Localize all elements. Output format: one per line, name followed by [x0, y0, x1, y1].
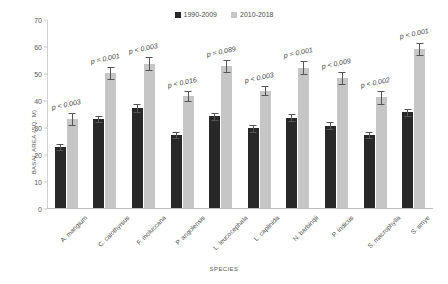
error-bar-cap [95, 116, 102, 117]
error-bar-line [291, 114, 292, 121]
error-bar-cap [173, 132, 180, 133]
error-bar-line [72, 113, 73, 125]
error-bar [288, 114, 295, 121]
error-bar-cap [211, 120, 218, 121]
error-bar-cap [223, 72, 230, 73]
x-axis-label-cell: S. smye [394, 212, 433, 260]
error-bar-cap [404, 109, 411, 110]
x-axis-label-cell: N. barbinqii [279, 212, 318, 260]
error-bar [146, 57, 153, 69]
error-bar-cap [262, 86, 269, 87]
bar-dark [132, 108, 143, 208]
x-axis-label-cell: L. caplinida [240, 212, 279, 260]
bar-light [144, 64, 155, 208]
error-bar-cap [300, 61, 307, 62]
bar-group: p < 0.002 [356, 20, 395, 208]
error-bar-cap [327, 122, 334, 123]
error-bar [57, 144, 64, 150]
error-bar [416, 43, 423, 55]
bar-light [376, 97, 387, 208]
error-bar-cap [262, 95, 269, 96]
error-bar [69, 113, 76, 125]
bar-dark [364, 135, 375, 208]
error-bar-cap [134, 104, 141, 105]
error-bar-cap [366, 138, 373, 139]
bar-light [414, 49, 425, 208]
bar-light [337, 78, 348, 208]
error-bar-cap [339, 84, 346, 85]
error-bar [95, 116, 102, 122]
error-bar-cap [185, 101, 192, 102]
error-bar [327, 122, 334, 129]
error-bar-line [149, 57, 150, 69]
error-bar-cap [416, 43, 423, 44]
p-value-annotation: p < 0.003 [244, 71, 274, 84]
legend-item-series-2: 2010-2018 [231, 11, 273, 18]
error-bar-line [214, 113, 215, 120]
bar-dark [171, 135, 182, 208]
x-axis-label-cell: P. angolensis [163, 212, 202, 260]
error-bar-cap [327, 129, 334, 130]
error-bar-line [381, 91, 382, 103]
error-bar [404, 109, 411, 116]
x-axis-label-cell: L. leucocephala [201, 212, 240, 260]
bar-light [105, 73, 116, 208]
y-axis-tick-mark [44, 209, 47, 210]
bar-group: p = 0.001 [86, 20, 125, 208]
x-axis-category-label: N. barbinqii [291, 214, 319, 242]
error-bar-line [137, 104, 138, 113]
error-bar-cap [404, 116, 411, 117]
error-bar-line [226, 60, 227, 72]
p-value-annotation: p < 0.001 [399, 28, 429, 41]
error-bar-cap [378, 91, 385, 92]
error-bar [262, 86, 269, 95]
legend-label-series-2: 2010-2018 [240, 11, 273, 18]
error-bar-cap [134, 112, 141, 113]
error-bar-cap [107, 67, 114, 68]
error-bar-cap [95, 122, 102, 123]
error-bar-line [342, 72, 343, 84]
legend-label-series-1: 1990-2009 [184, 11, 217, 18]
plot-area: 010203040506070 p < 0.003p = 0.001p < 0.… [47, 20, 433, 209]
x-axis-category-label: S. smye [409, 214, 431, 236]
error-bar [300, 61, 307, 73]
error-bar [107, 67, 114, 80]
y-axis-tick-label: 40 [34, 98, 42, 105]
p-value-annotation: p = 0.001 [283, 46, 313, 59]
error-bar-cap [69, 113, 76, 114]
x-axis-label-cell: C. calothyrsus [86, 212, 125, 260]
error-bar [378, 91, 385, 103]
bar-dark [93, 119, 104, 208]
y-axis-tick-label: 10 [34, 179, 42, 186]
error-bar [173, 132, 180, 137]
y-axis-tick-label: 60 [34, 44, 42, 51]
error-bar-line [303, 61, 304, 73]
bar-group: p < 0.016 [163, 20, 202, 208]
p-value-annotation: p < 0.003 [129, 42, 159, 55]
error-bar-cap [69, 125, 76, 126]
error-bar-cap [173, 138, 180, 139]
error-bar-cap [223, 60, 230, 61]
bar-dark [286, 118, 297, 208]
error-bar-cap [300, 74, 307, 75]
legend-item-series-1: 1990-2009 [175, 11, 217, 18]
error-bar [211, 113, 218, 120]
legend-swatch-series-1 [175, 12, 181, 18]
x-axis-line [47, 208, 433, 209]
y-axis-tick-label: 50 [34, 71, 42, 78]
error-bar-cap [416, 55, 423, 56]
bar-light [260, 91, 271, 208]
bar-light [67, 119, 78, 208]
error-bar-line [188, 91, 189, 100]
bar-groups: p < 0.003p = 0.001p < 0.003p < 0.016p = … [47, 20, 433, 208]
bar-light [183, 96, 194, 208]
bar-group: p < 0.001 [394, 20, 433, 208]
error-bar [223, 60, 230, 72]
error-bar-cap [339, 72, 346, 73]
bar-group: p < 0.003 [47, 20, 86, 208]
error-bar-cap [57, 150, 64, 151]
bar-group: p < 0.003 [240, 20, 279, 208]
x-axis-title: SPECIES [0, 266, 448, 272]
x-axis-label-cell: P. indicus [317, 212, 356, 260]
bar-dark [402, 112, 413, 208]
